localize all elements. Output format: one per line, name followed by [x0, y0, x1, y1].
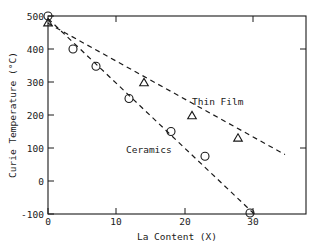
y-tick-label-0: 0 — [38, 176, 44, 187]
y-tick-label-200: 200 — [27, 110, 44, 121]
x-axis-tickmarks — [48, 208, 253, 214]
x-tick-label-20: 20 — [179, 216, 191, 227]
series-label-thin-film: Thin Film — [192, 96, 244, 107]
y-tick-label-neg100: -100 — [21, 209, 44, 220]
plot-frame — [48, 16, 306, 214]
y-axis-tickmarks — [48, 16, 54, 214]
data-point-ceramics — [201, 152, 209, 160]
y-tick-label-300: 300 — [27, 77, 44, 88]
data-point-thinfilm — [188, 111, 197, 118]
data-point-thinfilm — [140, 78, 149, 85]
ceramics-trendline — [48, 19, 257, 217]
curie-temperature-chart: 500 400 300 200 100 0 -100 0 10 20 30 La… — [0, 0, 319, 252]
data-point-ceramics — [167, 128, 175, 136]
y-tick-label-500: 500 — [27, 11, 44, 22]
series-label-ceramics: Ceramics — [126, 144, 172, 155]
chart-svg: 500 400 300 200 100 0 -100 0 10 20 30 La… — [0, 0, 319, 252]
y-axis-right-tickmarks — [300, 49, 306, 148]
data-point-thinfilm — [234, 134, 243, 141]
x-tick-label-10: 10 — [110, 216, 122, 227]
y-tick-label-100: 100 — [27, 143, 44, 154]
x-axis-title: La Content (X) — [137, 231, 217, 242]
x-tick-label-0: 0 — [45, 216, 51, 227]
y-axis-title: Curie Temperature (°C) — [7, 52, 18, 178]
x-tick-label-30: 30 — [247, 216, 259, 227]
data-point-ceramics — [69, 45, 77, 53]
x-axis-top-tickmarks — [116, 16, 253, 22]
thinfilm-trendline — [48, 23, 285, 154]
y-tick-label-400: 400 — [27, 44, 44, 55]
